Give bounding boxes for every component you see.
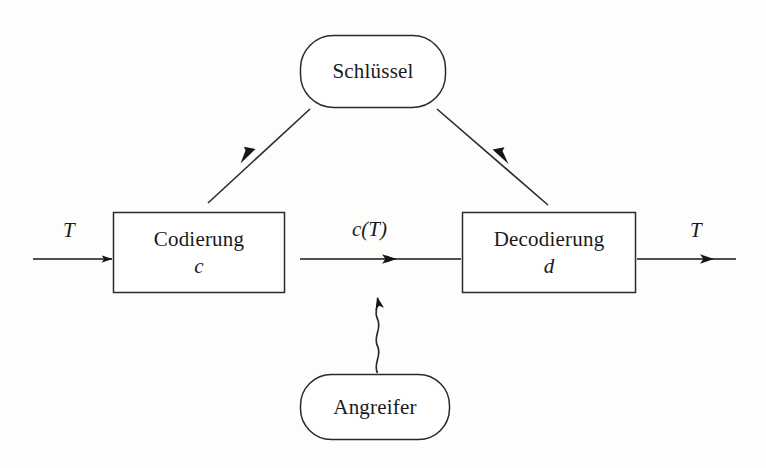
angreifer-node-outline[interactable]: [301, 375, 450, 440]
schluessel-node-outline[interactable]: [301, 36, 446, 108]
key-to-codierung-arrow: [208, 109, 310, 203]
input-plaintext-label: T: [63, 218, 75, 243]
ciphertext-label: c(T): [352, 217, 387, 242]
output-plaintext-label: T: [690, 218, 702, 243]
codierung-box-outline[interactable]: [114, 213, 285, 293]
diagram-canvas: Schlüssel Codierung c Decodierung d Angr…: [0, 0, 766, 468]
attacker-squiggle-arrow: [376, 298, 379, 373]
decodierung-box-outline[interactable]: [463, 213, 636, 293]
key-to-decodierung-arrowhead: [493, 147, 509, 164]
key-to-decodierung-arrow: [437, 109, 548, 205]
